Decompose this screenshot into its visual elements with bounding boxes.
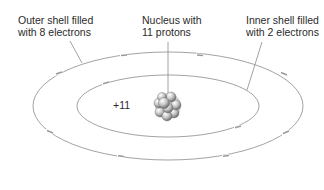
electron-icon	[280, 72, 287, 75]
nucleus-label: Nucleus with 11 protons	[142, 14, 202, 38]
nucleus-icon	[154, 92, 181, 121]
outer-shell-label-line-1: Outer shell filled	[18, 14, 93, 26]
inner-shell-label-line-1: Inner shell filled	[246, 14, 319, 26]
nucleus-label-line-1: Nucleus with	[142, 14, 202, 26]
electron-icon	[234, 126, 241, 128]
electron-icon	[102, 82, 109, 84]
inner-shell-label-line-2: with 2 electrons	[246, 26, 319, 38]
electron-icon	[117, 156, 124, 157]
electron-icon	[196, 55, 203, 56]
nucleus-charge-label: +11	[113, 99, 130, 111]
electron-icon	[46, 130, 53, 133]
electron-icon	[222, 156, 229, 157]
outer-shell-label: Outer shell filled with 8 electrons	[18, 14, 93, 38]
electron-icon	[120, 55, 127, 56]
outer-shell-leader-line	[70, 41, 82, 63]
nucleus-label-line-2: 11 protons	[142, 26, 202, 38]
outer-shell-label-line-2: with 8 electrons	[18, 26, 93, 38]
electron-icon	[282, 131, 289, 134]
electron-icon	[55, 72, 62, 75]
inner-shell-label: Inner shell filled with 2 electrons	[246, 14, 319, 38]
